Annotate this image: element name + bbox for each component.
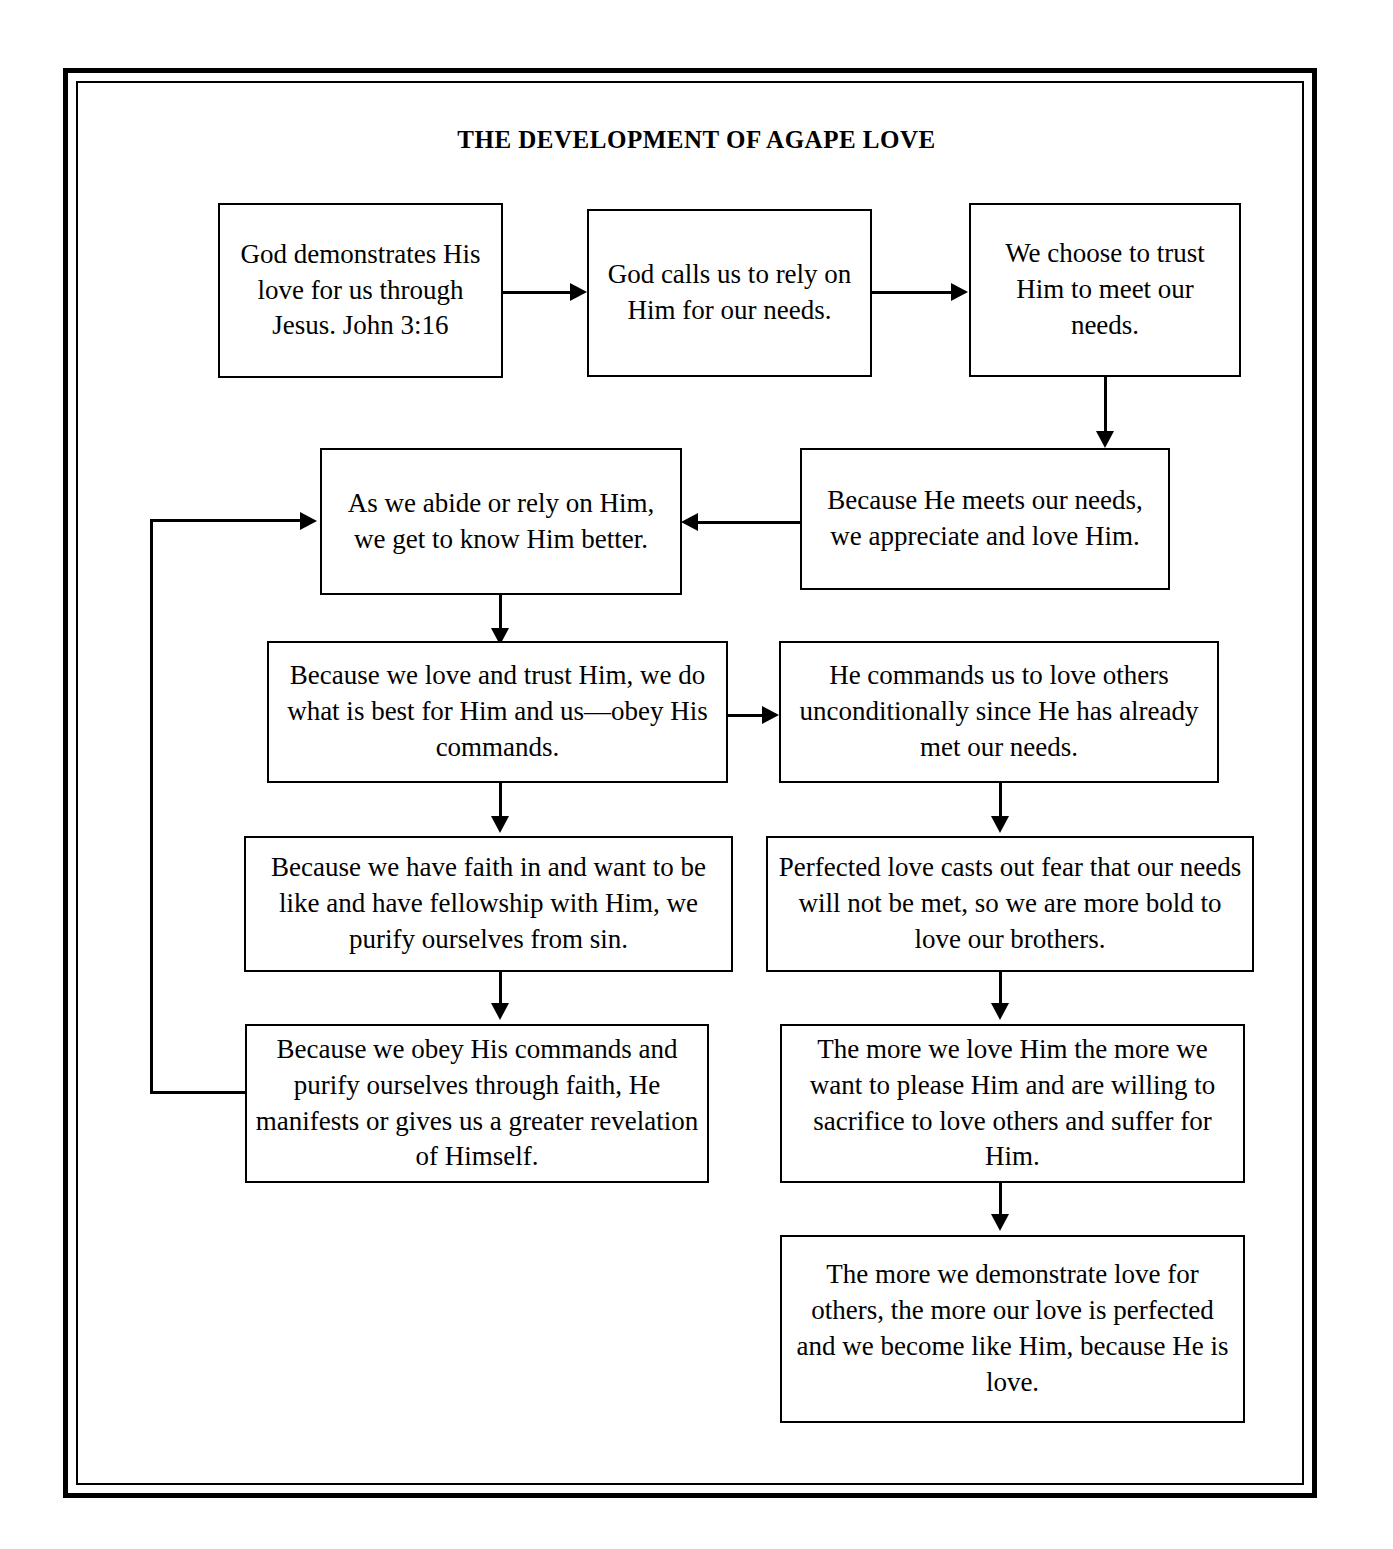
- flow-node-1: God demonstrates His love for us through…: [218, 203, 503, 378]
- page-title: THE DEVELOPMENT OF AGAPE LOVE: [0, 126, 1393, 154]
- edge-n5-n4-arrowhead: [681, 513, 698, 531]
- flow-node-2-label: God calls us to rely on Him for our need…: [597, 257, 862, 329]
- flow-node-9: Perfected love casts out fear that our n…: [766, 836, 1254, 972]
- flow-node-11: The more we love Him the more we want to…: [780, 1024, 1245, 1183]
- edge-n1-n2-line: [503, 291, 571, 294]
- flow-node-8: Because we have faith in and want to be …: [244, 836, 733, 972]
- edge-n2-n3-arrowhead: [951, 283, 968, 301]
- flow-node-12: The more we demonstrate love for others,…: [780, 1235, 1245, 1423]
- feedback-loop-vertical-segment: [150, 519, 153, 1094]
- flow-node-6-label: Because we love and trust Him, we do wha…: [277, 658, 718, 766]
- edge-n8-n10-arrowhead: [491, 1003, 509, 1020]
- flow-node-7: He commands us to love others unconditio…: [779, 641, 1219, 783]
- edge-n5-n4-line: [696, 521, 800, 524]
- flow-node-12-label: The more we demonstrate love for others,…: [790, 1257, 1235, 1401]
- flow-node-9-label: Perfected love casts out fear that our n…: [776, 850, 1244, 958]
- edge-n3-n5-line: [1104, 377, 1107, 439]
- flow-node-5-label: Because He meets our needs, we appreciat…: [810, 483, 1160, 555]
- edge-n7-n9-arrowhead: [991, 816, 1009, 833]
- edge-n6-n7-line: [728, 714, 766, 717]
- feedback-loop-arrowhead: [300, 512, 317, 530]
- flow-node-4: As we abide or rely on Him, we get to kn…: [320, 448, 682, 595]
- flow-node-11-label: The more we love Him the more we want to…: [790, 1032, 1235, 1176]
- flow-node-5: Because He meets our needs, we appreciat…: [800, 448, 1170, 590]
- flow-node-8-label: Because we have faith in and want to be …: [254, 850, 723, 958]
- flow-node-4-label: As we abide or rely on Him, we get to kn…: [330, 486, 672, 558]
- edge-n11-n12-arrowhead: [991, 1214, 1009, 1231]
- edge-n1-n2-arrowhead: [570, 283, 587, 301]
- flow-node-6: Because we love and trust Him, we do wha…: [267, 641, 728, 783]
- flow-node-3-label: We choose to trust Him to meet our needs…: [979, 236, 1231, 344]
- edge-n6-n7-arrowhead: [762, 706, 779, 724]
- edge-n9-n11-arrowhead: [991, 1003, 1009, 1020]
- flow-node-3: We choose to trust Him to meet our needs…: [969, 203, 1241, 377]
- flow-node-7-label: He commands us to love others unconditio…: [789, 658, 1209, 766]
- flow-node-10: Because we obey His commands and purify …: [245, 1024, 709, 1183]
- flow-node-2: God calls us to rely on Him for our need…: [587, 209, 872, 377]
- feedback-loop-top-segment: [150, 519, 302, 522]
- edge-n6-n8-arrowhead: [491, 816, 509, 833]
- flow-node-10-label: Because we obey His commands and purify …: [255, 1032, 699, 1176]
- feedback-loop-bottom-segment: [150, 1091, 248, 1094]
- flow-node-1-label: God demonstrates His love for us through…: [228, 237, 493, 345]
- edge-n3-n5-arrowhead: [1096, 431, 1114, 448]
- diagram-page: THE DEVELOPMENT OF AGAPE LOVE God demons…: [0, 0, 1393, 1549]
- edge-n2-n3-line: [872, 291, 952, 294]
